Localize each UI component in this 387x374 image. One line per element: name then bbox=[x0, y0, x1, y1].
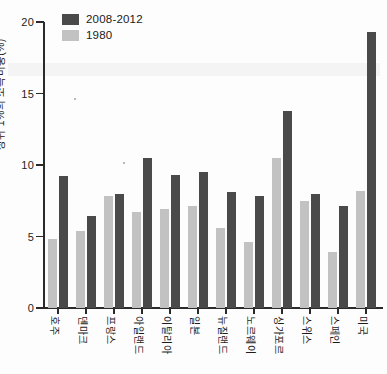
x-axis-label-미국: 미국 bbox=[356, 316, 371, 335]
bar-2008-2012-일본 bbox=[199, 172, 209, 308]
x-axis-tick bbox=[253, 308, 254, 314]
x-axis-label-아일랜드: 아일랜드 bbox=[132, 316, 147, 354]
x-axis-tick bbox=[197, 308, 198, 314]
x-axis-label-호주: 호주 bbox=[48, 316, 63, 335]
bars-layer bbox=[44, 22, 380, 308]
y-axis-tick bbox=[36, 236, 44, 238]
bar-1980-덴마크 bbox=[76, 231, 86, 308]
bar-1980-일본 bbox=[188, 206, 198, 308]
y-axis-tick bbox=[36, 307, 44, 309]
bar-2008-2012-스페인 bbox=[339, 206, 349, 308]
x-axis-tick bbox=[57, 308, 58, 314]
bar-2008-2012-노르웨이 bbox=[255, 196, 265, 308]
y-axis-tick bbox=[36, 21, 44, 23]
bar-2008-2012-프랑스 bbox=[115, 194, 125, 308]
bar-1980-아일랜드 bbox=[132, 212, 142, 308]
x-axis-label-스위스: 스위스 bbox=[300, 316, 315, 345]
x-axis-label-프랑스: 프랑스 bbox=[104, 316, 119, 345]
bar-2008-2012-뉴질랜드 bbox=[227, 192, 237, 308]
y-axis-tick-label: 5 bbox=[0, 231, 34, 243]
bar-chart: 2008-2012 1980 상위 1%의 소득비중(%) 05101520 호… bbox=[0, 0, 387, 374]
bar-2008-2012-덴마크 bbox=[87, 216, 97, 308]
x-axis-tick bbox=[225, 308, 226, 314]
x-axis-label-덴마크: 덴마크 bbox=[76, 316, 91, 345]
x-axis-tick bbox=[113, 308, 114, 314]
x-axis-label-노르웨이: 노르웨이 bbox=[244, 316, 259, 354]
x-axis-tick bbox=[85, 308, 86, 314]
x-axis-tick bbox=[169, 308, 170, 314]
bar-1980-싱가포르 bbox=[272, 158, 282, 308]
x-axis-label-일본: 일본 bbox=[188, 316, 203, 335]
bar-1980-스위스 bbox=[300, 201, 310, 308]
y-axis-tick-label: 10 bbox=[0, 159, 34, 171]
bar-2008-2012-미국 bbox=[367, 32, 377, 308]
bar-1980-뉴질랜드 bbox=[216, 228, 226, 308]
y-axis-tick-label: 20 bbox=[0, 16, 34, 28]
bar-1980-노르웨이 bbox=[244, 242, 254, 308]
bar-2008-2012-아일랜드 bbox=[143, 158, 153, 308]
bar-1980-프랑스 bbox=[104, 196, 114, 308]
x-axis-label-싱가포르: 싱가포르 bbox=[272, 316, 287, 354]
x-axis-tick bbox=[309, 308, 310, 314]
bar-1980-스페인 bbox=[328, 252, 338, 308]
bar-2008-2012-호주 bbox=[59, 176, 69, 308]
bar-1980-미국 bbox=[356, 191, 366, 308]
bar-1980-호주 bbox=[48, 239, 58, 308]
x-axis-tick bbox=[141, 308, 142, 314]
x-axis-label-뉴질랜드: 뉴질랜드 bbox=[216, 316, 231, 354]
x-axis-label-스페인: 스페인 bbox=[328, 316, 343, 345]
x-axis-tick bbox=[365, 308, 366, 314]
y-axis-tick bbox=[36, 93, 44, 95]
x-axis-tick bbox=[337, 308, 338, 314]
x-axis-label-이탈리아: 이탈리아 bbox=[160, 316, 175, 354]
y-axis-tick-label: 0 bbox=[0, 302, 34, 314]
bar-2008-2012-이탈리아 bbox=[171, 175, 181, 308]
bar-2008-2012-싱가포르 bbox=[283, 111, 293, 308]
y-axis-tick bbox=[36, 164, 44, 166]
bar-1980-이탈리아 bbox=[160, 209, 170, 308]
y-axis-tick-label: 15 bbox=[0, 88, 34, 100]
x-axis-tick bbox=[281, 308, 282, 314]
bar-2008-2012-스위스 bbox=[311, 194, 321, 308]
